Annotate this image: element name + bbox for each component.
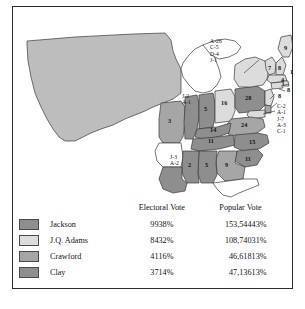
state-label-maine: 9: [284, 45, 287, 51]
state-new-jersey: [265, 89, 274, 106]
state-label-missouri: 3: [168, 118, 171, 124]
state-label-ohio: 16: [221, 100, 227, 106]
candidate-name: Jackson: [50, 216, 130, 232]
map-callout-illinois: J-2 A-1: [182, 93, 191, 106]
candidate-name: Clay: [50, 265, 130, 281]
popular-vote: 47,136: [194, 265, 252, 281]
state-label-pennsylvania: 28: [245, 95, 251, 101]
legend-swatch-cell: [19, 265, 50, 281]
state-label-connecticut: 8: [287, 87, 290, 93]
state-new-york: [234, 57, 269, 87]
state-label-kentucky: 14: [210, 127, 216, 133]
header-candidate: [50, 203, 130, 216]
map-svg: [13, 7, 292, 199]
electoral-vote: 37: [130, 265, 159, 281]
state-label-virginia: 24: [241, 122, 247, 128]
electoral-pct: 14%: [159, 265, 194, 281]
state-connecticut: [271, 82, 283, 89]
state-label-georgia: 9: [225, 162, 228, 168]
electoral-pct: 32%: [159, 232, 194, 248]
map-callout-louisiana: J-3 A-2: [170, 154, 179, 167]
map-callout-maryland-delaware: C-2 A-1 J-7 A-3 C-1: [277, 103, 286, 134]
table-row: Jackson 99 38% 153,544 43%: [19, 216, 287, 232]
popular-pct: 13%: [252, 265, 287, 281]
popular-pct: 13%: [252, 248, 287, 264]
legend-swatch-cell: [19, 216, 50, 232]
electoral-vote: 41: [130, 248, 159, 264]
electoral-pct: 16%: [159, 248, 194, 264]
state-ohio: [215, 89, 235, 123]
popular-vote: 46,618: [194, 248, 252, 264]
state-label-rhode-island: 4: [281, 77, 284, 83]
state-label-south-carolina: 11: [245, 156, 251, 162]
table-header-row: Electoral Vote Popular Vote: [19, 203, 287, 216]
state-label-new-jersey: 8: [278, 93, 281, 99]
electoral-vote: 84: [130, 232, 159, 248]
legend-swatch-jackson: [19, 219, 39, 230]
header-electoral-vote: Electoral Vote: [130, 203, 194, 216]
election-map-figure: A-26 C-5 D-4 J-1 C-2 A-1 J-7 A-3 C-1 J-2…: [12, 6, 293, 289]
popular-vote: 108,740: [194, 232, 252, 248]
table-row: Crawford 41 16% 46,618 13%: [19, 248, 287, 264]
table-row: Clay 37 14% 47,136 13%: [19, 265, 287, 281]
header-popular-vote: Popular Vote: [194, 203, 287, 216]
legend-swatch-crawford: [19, 251, 39, 262]
candidate-name: Crawford: [50, 248, 130, 264]
candidate-name: J.Q. Adams: [50, 232, 130, 248]
legend-swatch-clay: [19, 267, 39, 278]
state-label-north-carolina: 15: [249, 139, 255, 145]
state-florida-territory: [213, 179, 259, 197]
popular-pct: 43%: [252, 216, 287, 232]
state-missouri: [159, 101, 185, 143]
header-swatch: [19, 203, 50, 216]
state-label-massachusetts: 15: [290, 69, 293, 75]
state-label-tennessee: 11: [208, 138, 214, 144]
state-delaware: [265, 105, 271, 113]
popular-vote: 153,544: [194, 216, 252, 232]
legend-swatch-jq-adams: [19, 235, 39, 246]
legend-swatch-cell: [19, 232, 50, 248]
us-election-map: A-26 C-5 D-4 J-1 C-2 A-1 J-7 A-3 C-1 J-2…: [13, 7, 292, 197]
state-label-mississippi: 2: [188, 162, 191, 168]
state-label-new-hampshire: 8: [278, 65, 281, 71]
popular-pct: 31%: [252, 232, 287, 248]
map-callout-new-york: A-26 C-5 D-4 J-1: [210, 38, 222, 63]
results-legend: Electoral Vote Popular Vote Jackson 99 3…: [13, 203, 292, 289]
legend-swatch-cell: [19, 248, 50, 264]
table-row: J.Q. Adams 84 32% 108,740 31%: [19, 232, 287, 248]
callout-line-ct: [279, 89, 285, 91]
state-label-vermont: 7: [268, 65, 271, 71]
state-western-territory: [27, 33, 181, 141]
electoral-pct: 38%: [159, 216, 194, 232]
results-table: Electoral Vote Popular Vote Jackson 99 3…: [19, 203, 287, 281]
state-label-alabama: 5: [205, 162, 208, 168]
state-label-indiana: 5: [204, 106, 207, 112]
electoral-vote: 99: [130, 216, 159, 232]
